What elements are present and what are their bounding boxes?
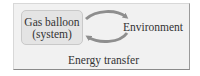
energy-transfer-caption: Energy transfer xyxy=(68,54,139,66)
arrow-to-environment-icon xyxy=(86,12,126,19)
arrow-to-system-icon xyxy=(88,33,127,42)
environment-label: Environment xyxy=(123,21,183,33)
